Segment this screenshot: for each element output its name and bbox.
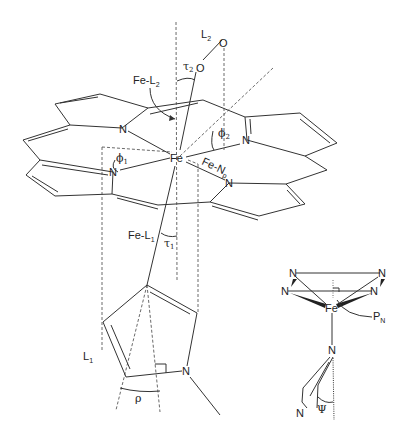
inset-label-psi: Ψ <box>317 403 327 416</box>
label-L2: L2 <box>201 28 211 42</box>
inset-label-N-tl: N <box>289 267 297 279</box>
label-Fe-L2: Fe-L2 <box>133 74 160 88</box>
label-tau2: τ2 <box>183 60 194 74</box>
inset-label-N-ring: N <box>296 407 304 419</box>
label-N-bottom-left: N <box>109 166 117 178</box>
label-phi1: ϕ1 <box>116 152 128 166</box>
label-phi2: ϕ2 <box>218 127 230 141</box>
inset-label-PN: PN <box>373 310 385 324</box>
label-tau1: τ1 <box>164 237 175 251</box>
label-L1: L1 <box>83 350 93 364</box>
labels: L2 O O τ2 Fe-L2 ϕ2 ϕ1 Fe Fe-Np N N N N F… <box>83 28 250 405</box>
label-rho: ρ <box>135 392 141 405</box>
inset-label-N-bl: N <box>281 285 289 297</box>
label-O-top: O <box>219 37 228 49</box>
label-N-top-right: N <box>242 134 250 146</box>
ligand-L1-ring <box>103 285 220 415</box>
label-O-bottom: O <box>196 62 205 74</box>
label-Fe-L1: Fe-L1 <box>128 229 155 243</box>
label-N-bottom-right: N <box>225 177 233 189</box>
label-Fe: Fe <box>170 152 183 164</box>
inset-label-Fe: Fe <box>325 302 338 314</box>
inset-side-view: N N N N Fe PN N N Ψ <box>281 267 386 420</box>
inset-label-N-pyr: N <box>328 344 336 356</box>
inset-label-N-br: N <box>370 285 378 297</box>
porphyrin-diagram: L2 O O τ2 Fe-L2 ϕ2 ϕ1 Fe Fe-Np N N N N F… <box>0 0 410 438</box>
inset-label-N-tr: N <box>378 267 386 279</box>
label-N-top-left: N <box>119 123 127 135</box>
label-N-L1: N <box>182 365 190 377</box>
